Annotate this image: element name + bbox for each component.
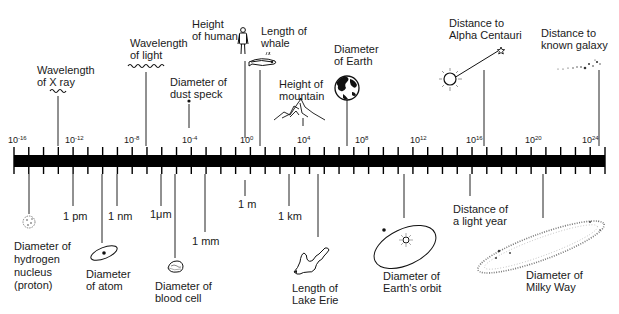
wave-icon <box>50 90 66 93</box>
label-milky-way: Diameter of Milky Way <box>526 269 583 293</box>
label-atom: Diameter of atom <box>86 268 131 292</box>
label-lake-erie: Length of Lake Erie <box>292 282 338 306</box>
label-alpha-centauri: Distance to Alpha Centauri <box>449 17 522 41</box>
tick-label-e16: 1016 <box>466 133 483 145</box>
powers-of-ten-diagram: 10-16 10-12 10-8 10-4 100 104 108 1012 1… <box>0 0 619 314</box>
tick-label-e-8: 10-8 <box>124 133 139 145</box>
scale-graphics <box>0 0 619 314</box>
label-1um: 1μm <box>150 208 172 220</box>
label-length-whale: Length of whale <box>261 25 307 49</box>
atom-icon <box>89 243 119 264</box>
label-1nm: 1 nm <box>108 210 132 222</box>
label-1mm: 1 mm <box>192 235 220 247</box>
label-height-human: Height of human <box>192 18 238 42</box>
sun-star-icon <box>439 47 505 91</box>
tick-label-e8: 108 <box>355 133 368 145</box>
label-light-year: Distance of a light year <box>453 203 508 227</box>
blood-cell-icon <box>168 261 183 272</box>
wave-icon <box>128 65 164 68</box>
tick-label-e12: 1012 <box>410 133 427 145</box>
log-scale-bar <box>14 147 605 174</box>
label-height-mountain: Height of mountain <box>279 78 324 102</box>
label-wavelength-xray: Wavelength of X ray <box>37 64 95 88</box>
galaxy-icon <box>558 59 601 69</box>
whale-icon <box>249 52 276 66</box>
tick-label-e-16: 10-16 <box>8 133 27 145</box>
label-wavelength-light: Wavelength of light <box>130 37 188 61</box>
label-earth-orbit: Diameter of Earth's orbit <box>383 270 441 294</box>
proton-icon <box>23 216 35 228</box>
orbit-icon <box>367 217 442 278</box>
tick-label-e-4: 10-4 <box>182 133 197 145</box>
earth-icon <box>335 76 359 100</box>
lake-icon <box>294 248 329 275</box>
label-1m: 1 m <box>238 198 256 210</box>
label-1km: 1 km <box>278 210 302 222</box>
label-dust-speck: Diameter of dust speck <box>170 76 227 100</box>
human-icon <box>238 28 248 54</box>
label-blood-cell: Diameter of blood cell <box>155 280 212 304</box>
label-diameter-earth: Diameter of Earth <box>334 43 379 67</box>
tick-label-e0: 100 <box>240 133 253 145</box>
label-known-galaxy: Distance to known galaxy <box>541 27 608 51</box>
label-proton: Diameter of hydrogen nucleus (proton) <box>14 240 71 292</box>
tick-label-e-12: 10-12 <box>65 133 84 145</box>
tick-label-e4: 104 <box>297 133 310 145</box>
tick-label-e24: 1024 <box>582 133 599 145</box>
tick-label-e20: 1020 <box>525 133 542 145</box>
label-1pm: 1 pm <box>63 210 87 222</box>
